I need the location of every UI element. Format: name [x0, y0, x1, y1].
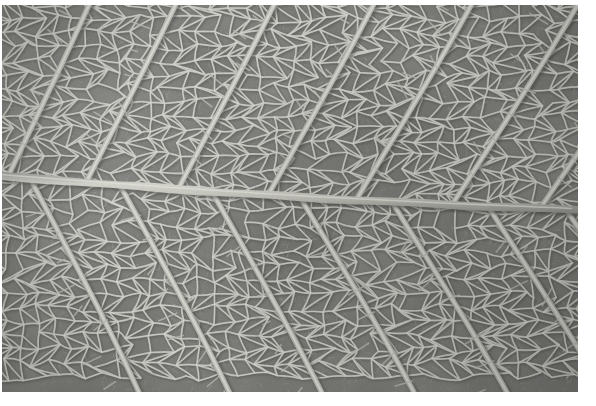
venation-vector-layer — [2, 5, 578, 392]
screenshot-canvas: Black and white macro photograph of the … — [0, 0, 596, 406]
film-grain — [2, 5, 578, 392]
leaf-venation-photograph — [2, 5, 578, 392]
